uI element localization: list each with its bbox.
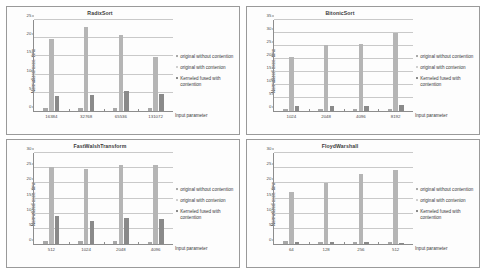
x-tick-label: 512 <box>34 247 69 252</box>
x-tick-labels: 512102420484096 <box>34 247 173 252</box>
bar-1 <box>78 108 83 111</box>
bar-3 <box>295 106 300 111</box>
bar-1 <box>353 109 358 111</box>
y-tick-label: 0 <box>29 104 31 109</box>
legend-label: Kerneled fused with contention <box>180 209 236 220</box>
chart-panel: RadixSortNormalized exec. time0510152025… <box>6 6 240 135</box>
chart-legend: original without contentionoriginal with… <box>416 54 476 88</box>
y-tick-label: 10 <box>27 67 32 72</box>
bar-3 <box>124 91 129 111</box>
legend-swatch-s2 <box>176 199 178 201</box>
plot-area: 0510152025163843276865536131072Input par… <box>33 20 173 112</box>
legend-item: original with contenion <box>176 198 236 204</box>
y-tick-label: 25 <box>267 161 272 166</box>
bar-2 <box>393 33 398 111</box>
legend-swatch-s2 <box>416 199 418 201</box>
bar-1 <box>43 241 48 244</box>
bar-3 <box>364 106 369 111</box>
bar-group <box>104 153 139 244</box>
plot-frame: 05101520253064128256512Input parameter <box>273 153 413 245</box>
y-tick-label: 25 <box>267 39 272 44</box>
y-tick-label: 10 <box>27 206 32 211</box>
y-tick-label: 15 <box>267 65 272 70</box>
y-tick-label: 30 <box>267 146 272 151</box>
x-axis-title: Input parameter <box>415 113 447 118</box>
x-tick-label: 32768 <box>69 114 104 119</box>
x-tick-label: 2048 <box>309 114 344 119</box>
bar-group <box>138 20 173 111</box>
y-tick-label: 10 <box>267 206 272 211</box>
chart-title: FastWalshTransform <box>7 143 239 149</box>
bar-3 <box>330 242 335 244</box>
bar-1 <box>353 242 358 244</box>
y-tick-label: 20 <box>267 52 272 57</box>
legend-label: Kerneled fused with contention <box>420 76 476 87</box>
bar-group <box>344 153 379 244</box>
y-tick-label: 0 <box>269 104 271 109</box>
y-tick-label: 15 <box>27 191 32 196</box>
legend-item: original with contenion <box>416 65 476 71</box>
chart-title: BitonicSort <box>247 10 479 16</box>
legend-swatch-s1 <box>416 188 418 190</box>
chart-title: RadixSort <box>7 10 239 16</box>
chart-legend: original without contentionoriginal with… <box>176 187 236 221</box>
legend-item: original without contention <box>416 187 476 193</box>
bar-group <box>309 20 344 111</box>
legend-label: original with contenion <box>180 198 225 204</box>
plot-area: 051015202530351024204840968192Input para… <box>273 20 413 112</box>
legend-label: original without contention <box>180 54 233 60</box>
bar-1 <box>113 108 118 111</box>
bar-1 <box>43 108 48 111</box>
legend-swatch-s3 <box>176 77 178 79</box>
bar-3 <box>90 221 95 244</box>
y-tick-label: 20 <box>267 176 272 181</box>
plot-frame: 051015202530351024204840968192Input para… <box>273 20 413 112</box>
bar-3 <box>159 219 164 244</box>
bar-2 <box>119 35 124 111</box>
x-tick-labels: 1024204840968192 <box>274 114 413 119</box>
legend-label: original without contention <box>420 187 473 193</box>
x-tick-label: 4096 <box>138 247 173 252</box>
y-tick-label: 5 <box>29 221 31 226</box>
x-tick-label: 8192 <box>378 114 413 119</box>
bar-2 <box>119 165 124 244</box>
bar-group <box>104 20 139 111</box>
bar-1 <box>283 241 288 244</box>
x-axis-title: Input parameter <box>175 113 207 118</box>
legend-item: Kerneled fused with contention <box>176 76 236 87</box>
legend-item: Kerneled fused with contention <box>416 209 476 220</box>
chart-panel: FloydWarshallNormalized exec. time051015… <box>246 139 480 268</box>
x-tick-label: 1024 <box>274 114 309 119</box>
x-tick-label: 256 <box>344 247 379 252</box>
y-tick-label: 25 <box>27 13 32 18</box>
bar-1 <box>78 241 83 244</box>
plot-area: 051015202530512102420484096Input paramet… <box>33 153 173 245</box>
bar-2 <box>49 167 54 244</box>
bar-group <box>378 20 413 111</box>
legend-swatch-s1 <box>176 55 178 57</box>
legend-swatch-s3 <box>416 77 418 79</box>
bar-1 <box>148 242 153 244</box>
bar-3 <box>295 242 300 244</box>
chart-panel: BitonicSortNormalized exec. time05101520… <box>246 6 480 135</box>
bar-group <box>378 153 413 244</box>
bar-1 <box>283 109 288 111</box>
bar-1 <box>388 109 393 111</box>
bar-1 <box>318 242 323 244</box>
bar-group <box>309 153 344 244</box>
legend-label: original with contenion <box>420 198 465 204</box>
y-tick-label: 10 <box>267 78 272 83</box>
bar-2 <box>153 165 158 244</box>
bars-container <box>274 20 413 111</box>
bar-3 <box>364 242 369 244</box>
y-tick-label: 5 <box>269 221 271 226</box>
legend-label: original with contenion <box>180 65 225 71</box>
bar-1 <box>388 242 393 244</box>
x-tick-label: 65536 <box>104 114 139 119</box>
bar-3 <box>399 243 404 244</box>
bar-2 <box>324 45 329 111</box>
chart-legend: original without contentionoriginal with… <box>416 187 476 221</box>
legend-swatch-s1 <box>416 55 418 57</box>
x-tick-label: 4096 <box>344 114 379 119</box>
y-tick-label: 5 <box>29 85 31 90</box>
